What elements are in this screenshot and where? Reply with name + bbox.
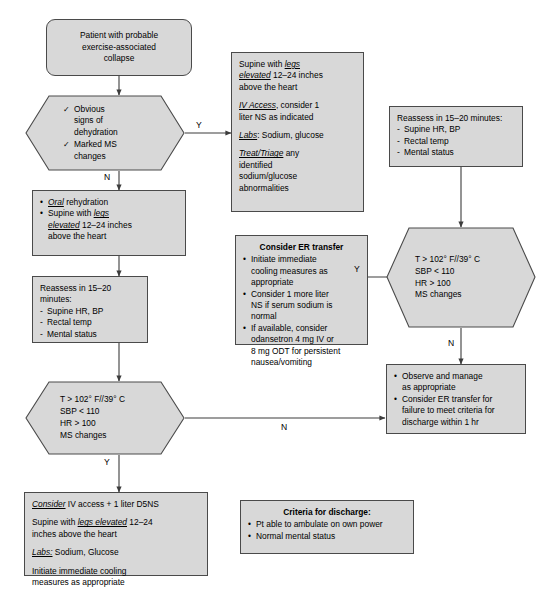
oral-rehydration-box: Oral rehydration Supine with legselevate…	[32, 190, 186, 256]
decision-vitals-right: T > 102° F//39° C SBP < 110 HR > 100 MS …	[386, 227, 536, 328]
start-node-line-3: collapse	[80, 53, 158, 64]
edge-label-dehydration-yes: Y	[196, 120, 202, 130]
decision-dehydration-item-1-l1: Obvious	[74, 104, 105, 114]
observe-item-2: Consider ER transfer forfailure to meet …	[394, 394, 518, 428]
decision-vitals-left-line-1: T > 102° F//39° C	[60, 394, 150, 406]
decision-dehydration-item-1: Obvious signs of dehydration	[63, 104, 147, 139]
decision-dehydration: Obvious signs of dehydration Marked MS c…	[25, 95, 185, 171]
criteria-item-2: Normal mental status	[248, 531, 406, 542]
edge-label-vitals-left-no: N	[281, 422, 287, 432]
decision-dehydration-item-1-l2: signs of	[74, 115, 103, 125]
observe-item-1: Observe and manageas appropriate	[394, 371, 518, 394]
reassess-left-box: Reassess in 15–20minutes: Supine HR, BP …	[32, 276, 148, 343]
decision-vitals-right-line-4: MS changes	[415, 289, 507, 301]
decision-vitals-left-line-4: MS changes	[60, 430, 150, 442]
consider-iv-line-1: Consider IV access + 1 liter D5NS	[32, 499, 200, 510]
supine-treat-line-3: Labs: Sodium, glucose	[239, 130, 356, 141]
oral-rehydration-item-2: Supine with legselevated 12–24 inchesabo…	[40, 208, 178, 242]
consider-er-transfer-box: Consider ER transfer Initiate immediatec…	[235, 235, 368, 345]
decision-vitals-left-text: T > 102° F//39° C SBP < 110 HR > 100 MS …	[25, 381, 185, 455]
flowchart-canvas: Patient with probable exercise-associate…	[0, 0, 546, 592]
criteria-for-discharge-box: Criteria for discharge: Pt able to ambul…	[240, 500, 414, 554]
edge-label-vitals-left-yes: Y	[104, 457, 110, 467]
consider-er-item-3: If available, considerodansetron 4 mg IV…	[243, 323, 360, 369]
reassess-right-box: Reassess in 15–20 minutes: Supine HR, BP…	[389, 106, 523, 167]
decision-vitals-right-line-2: SBP < 110	[415, 266, 507, 278]
start-node-line-2: exercise-associated	[80, 42, 158, 53]
reassess-right-item-2: Rectal temp	[397, 136, 515, 147]
observe-and-manage-box: Observe and manageas appropriate Conside…	[386, 364, 526, 434]
decision-vitals-left: T > 102° F//39° C SBP < 110 HR > 100 MS …	[25, 381, 185, 455]
decision-dehydration-item-2-l1: Marked MS	[74, 139, 117, 149]
reassess-left-item-1: Supine HR, BP	[40, 306, 140, 317]
decision-vitals-right-line-3: HR > 100	[415, 278, 507, 290]
decision-vitals-right-text: T > 102° F//39° C SBP < 110 HR > 100 MS …	[386, 227, 536, 328]
reassess-right-heading: Reassess in 15–20 minutes:	[397, 113, 515, 124]
reassess-right-item-3: Mental status	[397, 147, 515, 158]
decision-vitals-left-line-3: HR > 100	[60, 418, 150, 430]
consider-er-heading: Consider ER transfer	[243, 242, 360, 253]
reassess-left-item-3: Mental status	[40, 329, 140, 340]
decision-dehydration-item-2-l2: changes	[74, 151, 106, 161]
edge-label-dehydration-no: N	[104, 172, 110, 182]
consider-iv-line-4: Initiate immediate coolingmeasures as ap…	[32, 566, 200, 589]
consider-er-item-1: Initiate immediatecooling measures asapp…	[243, 254, 360, 288]
decision-vitals-left-line-2: SBP < 110	[60, 406, 150, 418]
supine-treat-line-2: IV Access, consider 1liter NS as indicat…	[239, 100, 356, 123]
decision-dehydration-text: Obvious signs of dehydration Marked MS c…	[25, 95, 185, 171]
decision-vitals-right-line-1: T > 102° F//39° C	[415, 254, 507, 266]
criteria-heading: Criteria for discharge:	[248, 507, 406, 518]
start-node-line-1: Patient with probable	[80, 30, 158, 41]
decision-dehydration-item-1-l3: dehydration	[74, 127, 118, 137]
decision-dehydration-item-2: Marked MS changes	[63, 139, 147, 163]
consider-iv-access-box: Consider IV access + 1 liter D5NS Supine…	[24, 492, 208, 576]
edge-label-vitals-right-yes: Y	[354, 264, 360, 274]
reassess-left-heading: Reassess in 15–20minutes:	[40, 283, 140, 306]
reassess-left-item-2: Rectal temp	[40, 317, 140, 328]
consider-er-item-2: Consider 1 more literNS if serum sodium …	[243, 289, 360, 323]
supine-treat-line-1: Supine with legselevated 12–24 inchesabo…	[239, 59, 356, 93]
reassess-right-item-1: Supine HR, BP	[397, 124, 515, 135]
oral-rehydration-item-1: Oral rehydration	[40, 197, 178, 208]
edge-label-vitals-right-no: N	[448, 338, 454, 348]
consider-iv-line-2: Supine with legs elevated 12–24inches ab…	[32, 517, 200, 540]
criteria-item-1: Pt able to ambulate on own power	[248, 519, 406, 530]
supine-treat-line-4: Treat/Triage anyidentifiedsodium/glucose…	[239, 148, 356, 194]
consider-iv-line-3: Labs: Sodium, Glucose	[32, 547, 200, 558]
supine-treat-box: Supine with legselevated 12–24 inchesabo…	[231, 52, 364, 212]
start-node: Patient with probable exercise-associate…	[46, 19, 192, 76]
